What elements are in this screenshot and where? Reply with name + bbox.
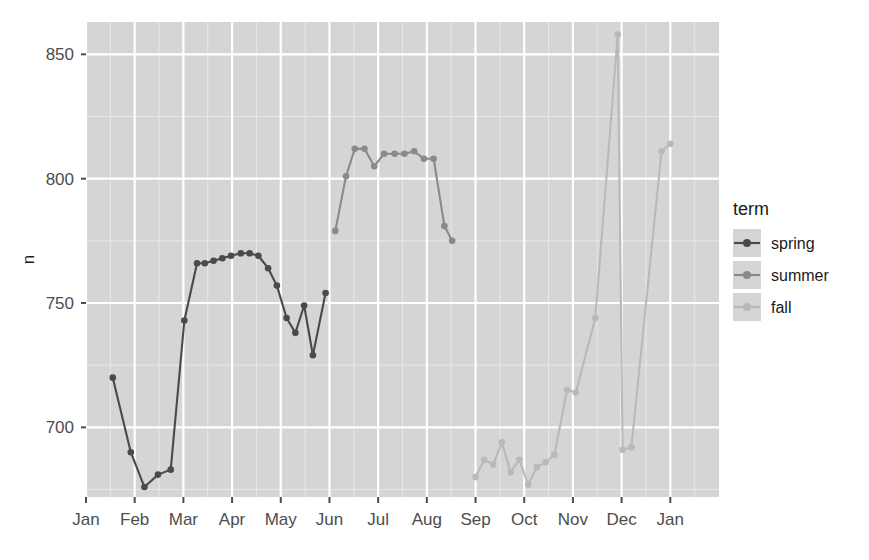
data-point bbox=[292, 330, 299, 337]
data-point bbox=[619, 446, 626, 453]
data-point bbox=[551, 451, 558, 458]
data-point bbox=[128, 449, 135, 456]
y-axis-tick-label: 750 bbox=[46, 294, 74, 313]
data-point bbox=[525, 481, 532, 488]
data-point bbox=[322, 290, 329, 297]
data-point bbox=[441, 223, 448, 230]
legend-item-summer[interactable]: summer bbox=[733, 261, 829, 289]
data-point bbox=[481, 456, 488, 463]
legend-key-point bbox=[743, 271, 751, 279]
y-axis-title: n bbox=[19, 255, 38, 264]
x-axis-tick-label: Aug bbox=[412, 510, 442, 529]
data-point bbox=[449, 238, 456, 245]
data-point bbox=[592, 315, 599, 322]
data-point bbox=[265, 265, 272, 272]
data-point bbox=[155, 471, 162, 478]
data-point bbox=[421, 155, 428, 162]
data-point bbox=[194, 260, 201, 267]
x-axis-tick-label: Mar bbox=[169, 510, 199, 529]
data-point bbox=[391, 151, 398, 158]
data-point bbox=[167, 466, 174, 473]
data-point bbox=[219, 255, 226, 262]
x-axis-tick-label: Feb bbox=[120, 510, 149, 529]
data-point bbox=[255, 252, 262, 259]
data-point bbox=[228, 252, 235, 259]
x-axis-tick-label: Oct bbox=[511, 510, 538, 529]
data-point bbox=[628, 444, 635, 451]
data-point bbox=[202, 260, 209, 267]
data-point bbox=[667, 141, 674, 148]
data-point bbox=[490, 461, 497, 468]
x-axis-tick-label: Apr bbox=[219, 510, 246, 529]
chart-container: 700750800850JanFebMarAprMayJunJulAugSepO… bbox=[0, 0, 869, 560]
data-point bbox=[516, 456, 523, 463]
line-chart: 700750800850JanFebMarAprMayJunJulAugSepO… bbox=[0, 0, 869, 560]
y-axis-tick-label: 700 bbox=[46, 418, 74, 437]
legend-item-label: spring bbox=[771, 235, 815, 252]
data-point bbox=[411, 148, 418, 155]
data-point bbox=[401, 151, 408, 158]
data-point bbox=[507, 469, 514, 476]
data-point bbox=[274, 282, 281, 289]
data-point bbox=[534, 464, 541, 471]
legend-item-spring[interactable]: spring bbox=[733, 229, 815, 257]
legend-item-fall[interactable]: fall bbox=[733, 293, 791, 321]
data-point bbox=[141, 484, 148, 491]
data-point bbox=[343, 173, 350, 180]
data-point bbox=[332, 228, 339, 235]
data-point bbox=[210, 257, 217, 264]
legend-item-label: fall bbox=[771, 299, 791, 316]
data-point bbox=[181, 317, 188, 324]
legend-title: term bbox=[733, 199, 769, 219]
x-axis-tick-label: Dec bbox=[606, 510, 637, 529]
data-point bbox=[246, 250, 253, 257]
x-axis-tick-label: May bbox=[265, 510, 298, 529]
x-axis-tick-label: Jun bbox=[316, 510, 343, 529]
x-axis-tick-label: Nov bbox=[558, 510, 589, 529]
data-point bbox=[381, 151, 388, 158]
data-point bbox=[361, 146, 368, 153]
data-point bbox=[371, 163, 378, 170]
data-point bbox=[310, 352, 317, 359]
legend-item-label: summer bbox=[771, 267, 829, 284]
data-point bbox=[614, 31, 621, 38]
data-point bbox=[283, 315, 290, 322]
x-axis-tick-label: Jul bbox=[367, 510, 389, 529]
data-point bbox=[351, 146, 358, 153]
x-axis-tick-label: Sep bbox=[460, 510, 490, 529]
data-point bbox=[109, 374, 116, 381]
data-point bbox=[472, 474, 479, 481]
legend-key-point bbox=[743, 303, 751, 311]
data-point bbox=[430, 155, 437, 162]
y-axis-tick-label: 850 bbox=[46, 45, 74, 64]
data-point bbox=[301, 302, 308, 309]
y-axis-tick-label: 800 bbox=[46, 170, 74, 189]
data-point bbox=[238, 250, 245, 257]
legend-key-point bbox=[743, 239, 751, 247]
data-point bbox=[499, 439, 506, 446]
data-point bbox=[564, 387, 571, 394]
data-point bbox=[573, 389, 580, 396]
x-axis-tick-label: Jan bbox=[72, 510, 99, 529]
data-point bbox=[542, 459, 549, 466]
x-axis-tick-label: Jan bbox=[657, 510, 684, 529]
data-point bbox=[658, 148, 665, 155]
